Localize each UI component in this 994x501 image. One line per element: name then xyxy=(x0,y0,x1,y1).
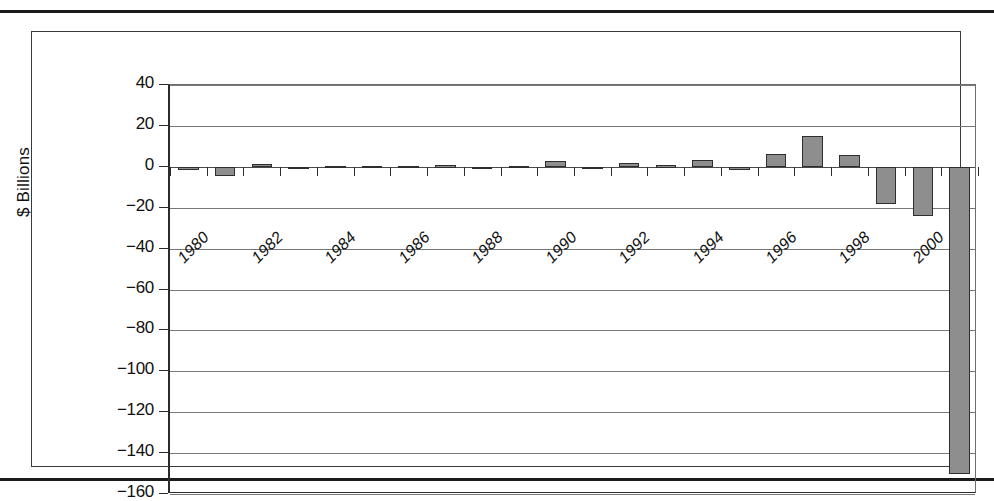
y-axis-title: $ Billions xyxy=(14,147,34,217)
x-tick-mark xyxy=(280,167,281,176)
x-tick-mark xyxy=(243,167,244,176)
bar xyxy=(288,167,309,170)
y-tick-label: −120 xyxy=(64,400,154,420)
gridline--160 xyxy=(170,494,975,495)
y-tick-mark xyxy=(159,248,168,249)
gridline--100 xyxy=(170,371,975,372)
y-tick-label: −40 xyxy=(64,237,154,257)
bar xyxy=(949,167,970,474)
y-tick-mark xyxy=(159,411,168,412)
bar xyxy=(876,167,897,204)
gridline--60 xyxy=(170,290,975,291)
y-tick-mark xyxy=(159,84,168,85)
bar xyxy=(252,164,273,167)
x-tick-mark xyxy=(647,167,648,176)
y-tick-mark xyxy=(159,370,168,371)
y-tick-label: −80 xyxy=(64,318,154,338)
gridline-20 xyxy=(170,126,975,127)
y-tick-mark xyxy=(159,329,168,330)
x-tick-mark xyxy=(317,167,318,176)
x-tick-mark xyxy=(574,167,575,176)
y-tick-label: −20 xyxy=(64,196,154,216)
gridline--120 xyxy=(170,412,975,413)
gridline--20 xyxy=(170,208,975,209)
x-tick-mark xyxy=(390,167,391,176)
plot-area xyxy=(168,84,976,493)
bar xyxy=(178,167,199,170)
bar xyxy=(435,165,456,168)
y-tick-mark xyxy=(159,289,168,290)
bar xyxy=(472,167,493,170)
bar xyxy=(582,167,603,170)
x-tick-mark xyxy=(170,167,171,176)
x-tick-mark xyxy=(758,167,759,176)
gridline--140 xyxy=(170,453,975,454)
bar xyxy=(215,167,236,176)
gridline-40 xyxy=(170,85,975,86)
y-tick-mark xyxy=(159,493,168,494)
bar xyxy=(619,163,640,167)
y-tick-mark xyxy=(159,207,168,208)
x-tick-mark xyxy=(427,167,428,176)
gridline--80 xyxy=(170,330,975,331)
x-tick-mark xyxy=(978,167,979,176)
bar xyxy=(839,155,860,167)
bar xyxy=(913,167,934,216)
y-tick-mark xyxy=(159,125,168,126)
x-tick-mark xyxy=(794,167,795,176)
y-tick-label: −100 xyxy=(64,359,154,379)
x-tick-mark xyxy=(611,167,612,176)
bar xyxy=(398,166,419,169)
y-tick-label: 20 xyxy=(64,114,154,134)
bar xyxy=(362,166,383,169)
y-tick-label: −160 xyxy=(64,482,154,501)
x-tick-mark xyxy=(684,167,685,176)
x-tick-mark xyxy=(941,167,942,176)
x-tick-mark xyxy=(905,167,906,176)
x-tick-mark xyxy=(207,167,208,176)
x-tick-mark xyxy=(501,167,502,176)
bar xyxy=(325,166,346,169)
y-tick-label: 0 xyxy=(64,155,154,175)
bar xyxy=(545,161,566,167)
x-tick-mark xyxy=(868,167,869,176)
chart-frame: $ Billions 40200−20−40−60−80−100−120−140… xyxy=(31,31,961,467)
bar xyxy=(692,160,713,167)
page-rule-top xyxy=(0,10,994,13)
bar xyxy=(766,154,787,167)
x-tick-mark xyxy=(354,167,355,176)
y-tick-label: 40 xyxy=(64,73,154,93)
y-tick-mark xyxy=(159,452,168,453)
bar xyxy=(656,165,677,168)
bar xyxy=(802,136,823,167)
x-tick-mark xyxy=(537,167,538,176)
y-tick-mark xyxy=(159,166,168,167)
y-tick-label: −60 xyxy=(64,278,154,298)
y-tick-label: −140 xyxy=(64,441,154,461)
bar xyxy=(729,167,750,171)
bar xyxy=(509,166,530,169)
x-tick-mark xyxy=(721,167,722,176)
x-tick-mark xyxy=(464,167,465,176)
x-tick-mark xyxy=(831,167,832,176)
